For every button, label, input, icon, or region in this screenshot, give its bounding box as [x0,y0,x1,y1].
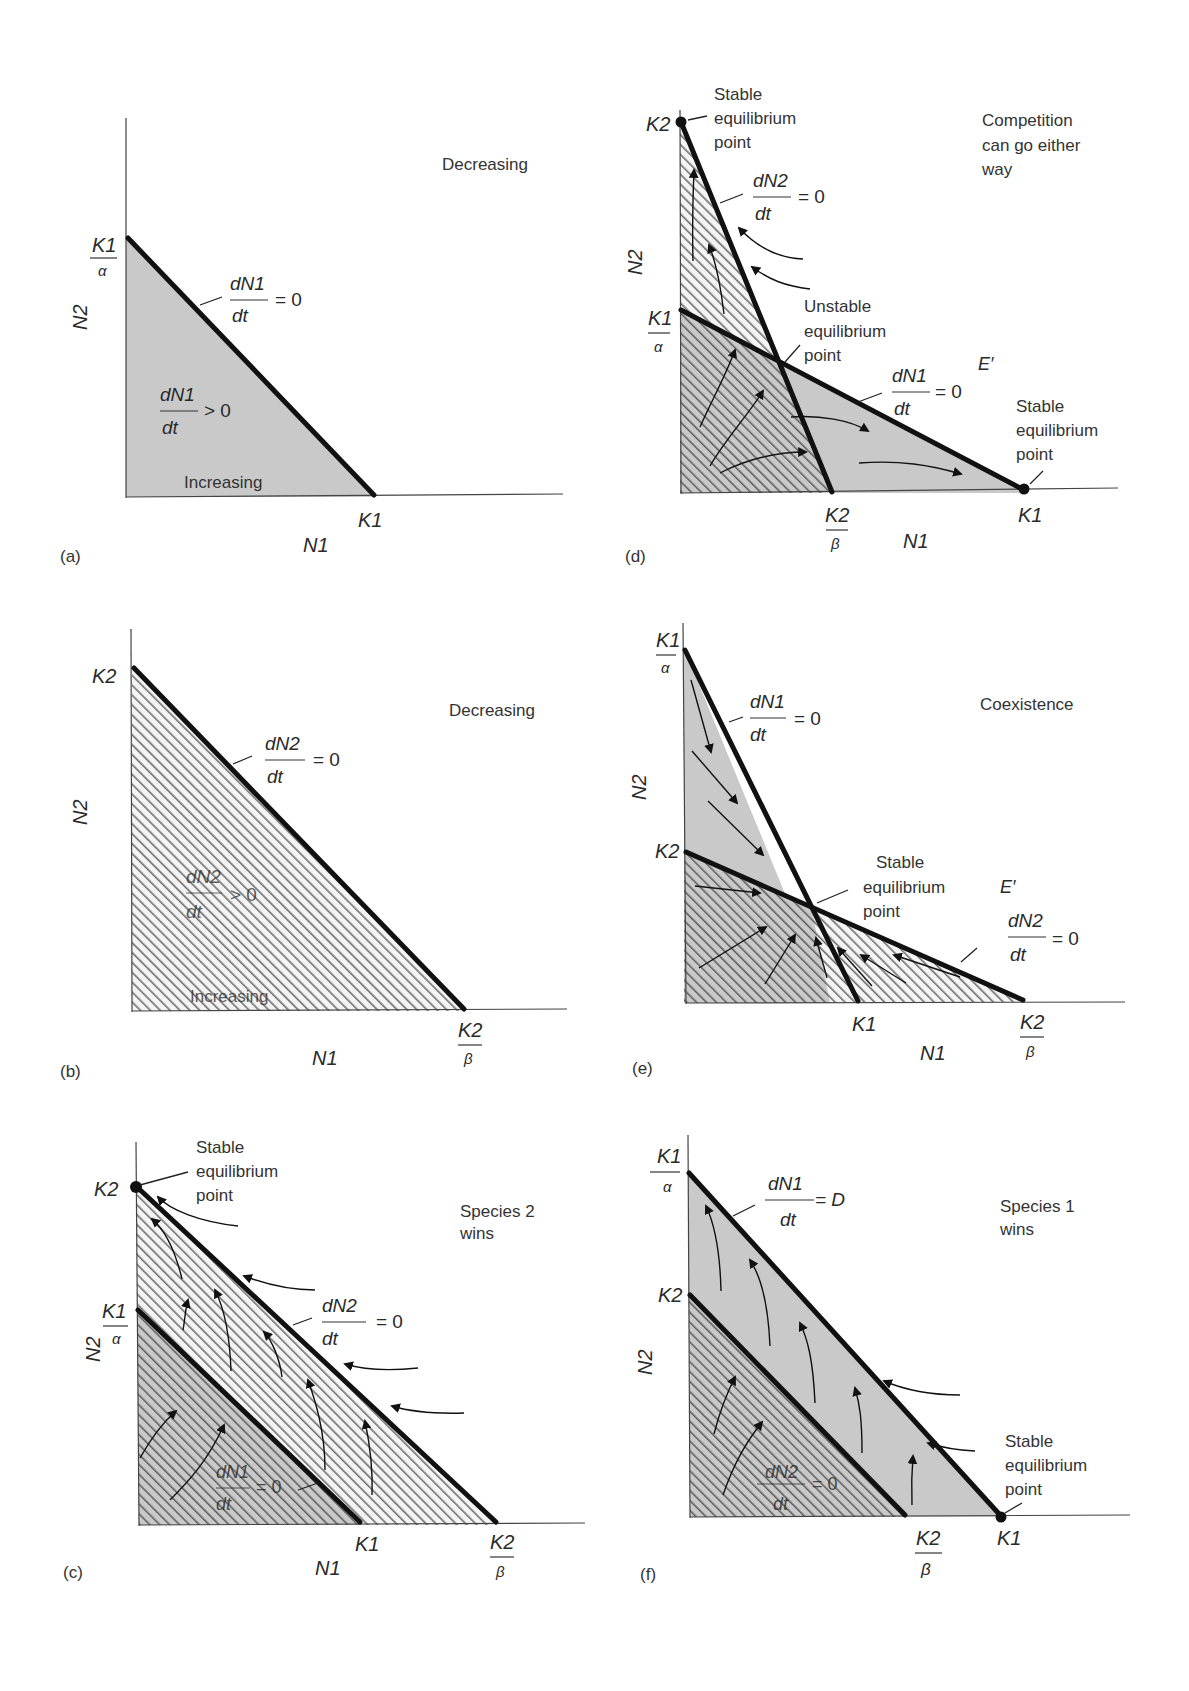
y-intercept-k1-alpha: K1 α [90,234,117,279]
decreasing-text: Decreasing [449,701,535,720]
svg-text:point: point [804,346,841,365]
y-axis-label: N2 [69,799,91,825]
svg-text:point: point [1016,445,1053,464]
svg-text:Stable: Stable [714,85,762,104]
panel-f: K1 α K2 K2 β K1 N2 (f) dN1 dt = D Specie… [634,1135,1130,1584]
x-intercept-k1: K1 [1018,504,1042,526]
y-intercept-k1-alpha: K1 α [656,629,680,676]
svg-text:= 0: = 0 [794,708,821,729]
svg-text:point: point [196,1186,233,1205]
stable-equilibrium-label-top: Stable equilibrium point [714,85,796,152]
stable-equilibrium-label: Stable equilibrium point [1005,1432,1087,1499]
y-axis-label: N2 [69,304,91,330]
y-axis-label: N2 [624,249,646,275]
svg-text:> 0: > 0 [230,884,257,905]
y-intercept-k1-alpha: K1 α [648,307,672,355]
svg-text:K2: K2 [916,1527,940,1549]
svg-text:way: way [981,160,1013,179]
svg-text:α: α [654,338,663,355]
stable-equilibrium-label-right: Stable equilibrium point [1016,397,1098,464]
svg-text:= 0: = 0 [275,289,302,310]
x-intercept-k1: K1 [355,1533,379,1555]
svg-text:β: β [495,1563,505,1580]
svg-text:wins: wins [999,1220,1034,1239]
y-intercept-k1-alpha: K1 α [650,1145,681,1195]
panel-label: (f) [640,1565,656,1584]
svg-text:equilibrium: equilibrium [1005,1456,1087,1475]
y-axis-label: N2 [82,1336,104,1362]
svg-text:dN2: dN2 [1008,910,1043,931]
svg-text:= 0: = 0 [256,1477,282,1497]
svg-text:dt: dt [162,417,179,438]
outcome-text: Coexistence [980,695,1074,714]
unstable-equilibrium-label: Unstable equilibrium point [804,297,886,365]
svg-text:point: point [714,133,751,152]
svg-text:dt: dt [755,203,772,224]
increasing-text: Increasing [184,473,262,492]
isocline-label-dn1: dN1 dt = D [765,1173,845,1230]
isocline-label-dn2: dN2 dt = 0 [322,1295,403,1349]
svg-text:Competition: Competition [982,111,1073,130]
svg-text:dt: dt [894,398,911,419]
svg-text:dN1: dN1 [216,1462,249,1482]
svg-text:= 0: = 0 [798,186,825,207]
svg-text:equilibrium: equilibrium [196,1162,278,1181]
outcome-text: Competition can go either way [981,111,1081,179]
e-prime-label: E′ [978,354,994,374]
svg-text:K1: K1 [657,1145,681,1167]
svg-text:dN2: dN2 [322,1295,357,1316]
svg-text:dN1: dN1 [768,1173,803,1194]
y-intercept-k2: K2 [655,840,679,862]
panel-a: K1 α K1 N2 N1 (a) dN1 dt = 0 dN1 dt > 0 … [60,118,563,566]
y-axis [131,629,132,1012]
svg-text:K2: K2 [458,1019,482,1041]
svg-text:β: β [463,1050,473,1067]
svg-text:= 0: = 0 [935,381,962,402]
svg-text:Stable: Stable [196,1138,244,1157]
x-axis-label: N1 [303,534,329,556]
svg-text:Unstable: Unstable [804,297,871,316]
svg-text:dt: dt [1010,944,1027,965]
svg-text:point: point [863,902,900,921]
isocline-label-dn1: dN1 dt = 0 [892,365,962,419]
svg-text:K2: K2 [490,1531,514,1553]
outcome-text: Species 1 wins [999,1197,1075,1239]
svg-text:dt: dt [186,901,203,922]
x-intercept-k2-beta: K2 β [458,1019,482,1067]
svg-text:wins: wins [459,1224,494,1243]
x-axis-label: N1 [920,1042,946,1064]
stable-equilibrium-label: Stable equilibrium point [863,853,945,921]
y-intercept-k2: K2 [658,1284,682,1306]
isocline-label-dn2: dN2 dt = 0 [753,170,825,224]
y-intercept-k2: K2 [94,1178,118,1200]
panel-e: K1 α K2 K1 K2 β N2 N1 (e) dN1 dt = 0 Coe… [628,623,1125,1078]
svg-text:β: β [830,535,840,552]
y-intercept-k1-alpha: K1 α [102,1300,128,1347]
svg-text:equilibrium: equilibrium [714,109,796,128]
svg-text:dt: dt [750,724,767,745]
panel-label: (c) [63,1563,83,1582]
y-axis-label: N2 [628,774,650,800]
svg-text:β: β [1025,1043,1035,1060]
svg-text:dN1: dN1 [160,384,195,405]
svg-text:dN2: dN2 [186,866,221,887]
svg-text:K2: K2 [825,504,849,526]
svg-text:= 0: = 0 [812,1474,838,1494]
svg-text:α: α [112,1330,121,1347]
stable-equilibrium-dot-right [1019,484,1030,495]
panel-b: K2 K2 β N2 N1 (b) dN2 dt = 0 dN2 dt > 0 … [60,629,567,1081]
x-axis-label: N1 [315,1557,341,1579]
y-intercept-k2: K2 [646,113,670,135]
alpha-text: α [98,262,107,279]
svg-text:Species 2: Species 2 [460,1202,535,1221]
svg-text:= 0: = 0 [376,1311,403,1332]
isocline-label: dN1 dt = 0 [230,273,302,326]
svg-text:dN1: dN1 [230,273,265,294]
x-intercept-k2-beta: K2 β [825,504,849,552]
svg-text:dN2: dN2 [753,170,788,191]
k1-text: K1 [92,234,116,256]
svg-text:dN1: dN1 [892,365,927,386]
svg-text:K2: K2 [1020,1011,1044,1033]
stable-equilibrium-dot-top [676,117,687,128]
x-axis-label: N1 [312,1047,338,1069]
